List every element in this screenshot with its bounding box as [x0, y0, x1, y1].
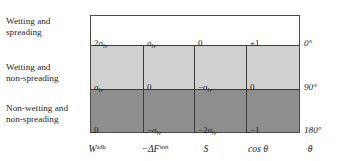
value-prefix: −1: [250, 125, 260, 135]
axis-label-superscript: wet: [159, 143, 168, 150]
value-subscript: lv: [103, 43, 107, 49]
axis-label-w-adh: Wadh: [88, 141, 105, 154]
region-line-2: non-spreading: [6, 114, 90, 125]
axis-label-main: cos θ: [248, 143, 268, 154]
axis-label-delta-f-wet: −ΔFwet: [141, 141, 168, 154]
value-0deg-s: 0: [197, 39, 204, 50]
axis-label-theta: θ: [308, 141, 313, 154]
axis-label-main: S: [204, 143, 209, 154]
value-subscript: lv: [157, 130, 161, 136]
angle-tick-180-degrees: 180°: [304, 126, 321, 135]
value-180deg-s: −2σlv: [197, 126, 217, 137]
band-non-wetting-and-non-spreading: [91, 89, 299, 132]
value-90deg-s: −σlv: [197, 83, 213, 94]
chart-frame: 2σlv σlv 0 +1 σlv 0 −σlv 0 0 −σlv: [90, 15, 300, 133]
value-180deg-df-wet: −σlv: [146, 126, 162, 137]
axis-label-main: W: [88, 143, 96, 154]
band-wetting-and-spreading: [91, 16, 299, 45]
value-0deg-cos-theta: +1: [249, 39, 261, 50]
region-label-wetting-and-spreading: Wetting and spreading: [6, 16, 90, 39]
region-line-1: Wetting and: [6, 62, 90, 73]
value-90deg-w-adh: σlv: [93, 83, 104, 94]
value-subscript: lv: [98, 87, 102, 93]
axis-label-superscript: adh: [96, 143, 105, 150]
value-90deg-cos-theta: 0: [249, 83, 256, 94]
region-label-wetting-and-non-spreading: Wetting and non-spreading: [6, 62, 90, 85]
region-line-2: non-spreading: [6, 73, 90, 84]
region-line-1: Non-wetting and: [6, 103, 90, 114]
figure-root: Wetting and spreading Wetting and non-sp…: [0, 0, 347, 161]
value-0deg-w-adh: 2σlv: [93, 39, 108, 50]
value-prefix: +1: [250, 38, 260, 48]
region-line-2: spreading: [6, 27, 90, 38]
value-prefix: 0: [250, 82, 255, 92]
value-subscript: lv: [212, 130, 216, 136]
value-90deg-df-wet: 0: [146, 83, 153, 94]
value-prefix: 0: [198, 38, 203, 48]
band-wetting-and-non-spreading: [91, 45, 299, 89]
axis-label-s: S: [204, 141, 209, 154]
region-label-non-wetting-and-non-spreading: Non-wetting and non-spreading: [6, 103, 90, 126]
value-subscript: lv: [151, 43, 155, 49]
value-prefix: 0: [94, 125, 99, 135]
value-180deg-w-adh: 0: [93, 126, 100, 137]
value-0deg-df-wet: σlv: [146, 39, 157, 50]
angle-tick-90-degrees: 90°: [304, 83, 317, 92]
region-line-1: Wetting and: [6, 16, 90, 27]
value-subscript: lv: [208, 87, 212, 93]
value-180deg-cos-theta: −1: [249, 126, 261, 137]
axis-label-main: −ΔF: [141, 143, 159, 154]
axis-label-main: θ: [308, 143, 313, 154]
angle-tick-0-degrees: 0°: [304, 39, 312, 48]
axis-label-cos-theta: cos θ: [248, 141, 268, 154]
value-prefix: 0: [147, 82, 152, 92]
value-prefix: −2: [198, 125, 208, 135]
